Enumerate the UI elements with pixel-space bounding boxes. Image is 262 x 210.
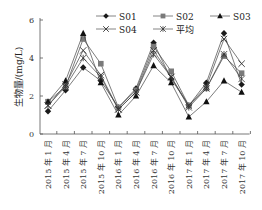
diamond-marker [103,13,109,19]
x-tick-label: 2016 年 4 月 [131,140,141,189]
legend-label: S02 [176,12,194,22]
asterisk-marker [80,55,86,61]
legend-item-2: S02 [153,12,194,22]
legend-item-5: 平均 [153,24,194,35]
y-tick-label: 0 [29,130,34,139]
x-tick-label: 2015 年 10 月 [96,140,106,194]
x-tick-label: 2016 年 7 月 [149,140,159,189]
diamond-marker [80,64,86,70]
series-line [48,33,242,111]
triangle-marker [217,13,223,18]
square-marker [98,61,104,67]
x-tick-label: 2017 年 4 月 [201,140,211,189]
asterisk-marker [45,102,51,108]
y-axis-label: 生物量/(mg/L) [13,47,24,107]
x-tick-label: 2015 年 4 月 [61,140,71,189]
legend-item-4: S04 [96,25,137,35]
x-marker [80,47,86,53]
legend-item-1: S01 [96,12,137,22]
x-tick-label: 2017 年 7 月 [219,140,229,189]
y-tick-label: 4 [29,54,34,63]
square-marker [161,14,166,19]
biomass-line-chart: 生物量/(mg/L) 02462015 年 1 月2015 年 4 月2015 … [0,0,262,210]
legend-label: S03 [233,12,251,22]
series-layer [45,30,245,120]
triangle-marker [186,113,192,119]
x-tick-label: 2017 年 1 月 [184,140,194,189]
series-4 [45,36,245,113]
series-5 [45,51,245,113]
legend-label: S04 [119,25,137,35]
x-tick-label: 2015 年 7 月 [78,140,88,189]
series-3 [45,30,245,120]
axes: 02462015 年 1 月2015 年 4 月2015 年 7 月2015 年… [29,16,250,194]
x-tick-label: 2015 年 1 月 [43,140,53,189]
diamond-marker [238,81,244,87]
diamond-marker [221,30,227,36]
y-tick-label: 6 [29,16,34,25]
triangle-marker [150,62,156,68]
triangle-marker [80,30,86,36]
y-tick-label: 2 [29,92,34,101]
x-tick-label: 2017 年 10 月 [237,140,247,194]
asterisk-marker [168,74,174,80]
legend-item-3: S03 [210,12,251,22]
y-axis-title: 生物量/(mg/L) [13,47,24,107]
legend: S01S02S03S04平均 [96,12,251,35]
x-marker [238,61,244,67]
x-tick-label: 2016 年 10 月 [166,140,176,194]
legend-label: 平均 [176,24,194,35]
square-marker [239,70,245,76]
square-marker [168,69,174,75]
triangle-marker [238,89,244,95]
x-tick-label: 2016 年 1 月 [113,140,123,189]
triangle-marker [221,77,227,83]
legend-label: S01 [119,12,137,22]
